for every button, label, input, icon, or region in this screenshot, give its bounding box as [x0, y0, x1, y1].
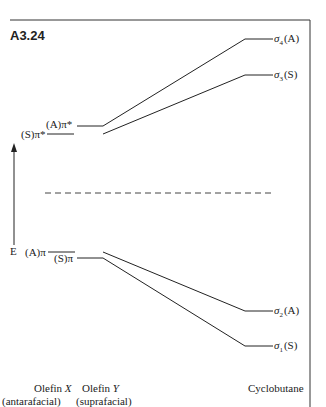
- energy-axis-label: E: [10, 245, 17, 257]
- level-label-sigma2: σ2(A): [274, 304, 300, 319]
- level-label-sigma4: σ4(A): [274, 32, 300, 47]
- caption-olefin-y: Olefin Y: [82, 382, 121, 394]
- figure-id: A3.24: [10, 28, 45, 43]
- caption-cyclobutane: Cyclobutane: [248, 382, 304, 394]
- correlation-a-pi-star-sigma4: [103, 39, 245, 126]
- correlation-s-pi-star-sigma3: [103, 75, 245, 134]
- caption-olefin-x-mode: (antarafacial): [2, 395, 61, 407]
- orbital-correlation-diagram: A3.24 E (A)π* (S)π* (A)π (S)π σ4(A) σ3(S…: [0, 0, 326, 407]
- caption-olefin-y-mode: (suprafacial): [76, 395, 132, 407]
- level-label-a-pi: (A)π: [25, 246, 46, 259]
- level-label-a-pi-star: (A)π*: [46, 118, 72, 131]
- level-label-sigma3: σ3(S): [274, 68, 298, 83]
- level-label-s-pi: (S)π: [54, 252, 73, 265]
- caption-olefin-x: Olefin X: [34, 382, 73, 394]
- level-label-s-pi-star: (S)π*: [21, 128, 46, 141]
- level-label-sigma1: σ1(S): [274, 339, 298, 354]
- energy-arrow-icon: [11, 143, 17, 245]
